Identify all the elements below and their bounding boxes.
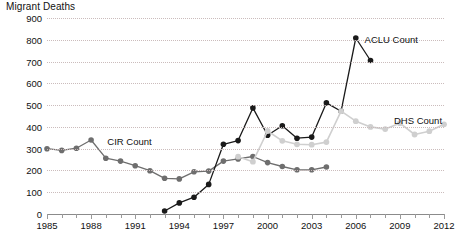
gridline [47, 170, 444, 171]
y-axis-tick-label: 0 [37, 209, 42, 220]
data-point [309, 142, 315, 148]
y-axis-tick-label: 400 [26, 121, 42, 132]
y-axis-labels: 0100200300400500600700800900 [0, 18, 42, 214]
data-point [265, 128, 271, 134]
x-axis-tick [356, 214, 357, 219]
x-axis-tick [238, 214, 239, 218]
series-label-aclu: ACLU Count [365, 34, 418, 45]
series-canvas [47, 18, 444, 214]
y-axis-tick-label: 700 [26, 56, 42, 67]
data-point [162, 176, 168, 182]
x-axis-tick [150, 214, 151, 218]
x-axis-tick-label: 2000 [257, 220, 278, 231]
x-axis-tick [47, 214, 48, 219]
x-axis-tick [62, 214, 63, 218]
data-point [221, 158, 227, 164]
x-axis-tick [326, 214, 327, 218]
gridline [47, 18, 444, 19]
y-axis-tick-label: 500 [26, 100, 42, 111]
gridline [47, 127, 444, 128]
x-axis-tick-label: 1994 [169, 220, 190, 231]
plot-area: CIR CountACLU CountDHS Count [47, 18, 444, 214]
data-point [324, 164, 330, 170]
gridline [47, 105, 444, 106]
y-axis-tick-label: 100 [26, 187, 42, 198]
data-point [88, 137, 94, 143]
data-point [309, 134, 315, 140]
x-axis-tick [415, 214, 416, 218]
data-point [235, 154, 241, 160]
data-point [279, 138, 285, 144]
y-axis-tick-label: 600 [26, 78, 42, 89]
x-axis-tick-label: 1991 [125, 220, 146, 231]
gridline [47, 192, 444, 193]
x-axis-tick [135, 214, 136, 219]
data-point [235, 138, 241, 144]
data-point [338, 108, 344, 114]
chart-title: Migrant Deaths [6, 1, 75, 12]
data-point [177, 176, 183, 182]
data-point [103, 155, 109, 161]
data-point [280, 164, 286, 170]
x-axis-tick [444, 214, 445, 219]
data-point [353, 118, 359, 124]
y-axis-tick-label: 300 [26, 143, 42, 154]
data-point [132, 163, 138, 169]
x-axis-tick [429, 214, 430, 218]
x-axis-tick-label: 1985 [36, 220, 57, 231]
y-axis-tick-label: 900 [26, 13, 42, 24]
x-axis-tick-label: 2009 [389, 220, 410, 231]
data-point [221, 142, 227, 148]
x-axis-tick [165, 214, 166, 218]
x-axis-tick-label: 1997 [213, 220, 234, 231]
x-axis-tick [268, 214, 269, 219]
data-point [324, 139, 330, 145]
gridline [47, 83, 444, 84]
data-point [294, 141, 300, 147]
y-axis-tick-label: 800 [26, 34, 42, 45]
x-axis-tick [209, 214, 210, 218]
x-axis-tick-label: 2006 [345, 220, 366, 231]
x-axis-tick [370, 214, 371, 218]
data-point [191, 194, 197, 200]
x-axis-tick [76, 214, 77, 218]
x-axis-tick-label: 2012 [433, 220, 454, 231]
x-axis-tick [297, 214, 298, 218]
data-point [412, 132, 418, 138]
x-axis-tick [341, 214, 342, 218]
x-axis-tick-label: 2003 [301, 220, 322, 231]
series-label-cir: CIR Count [107, 136, 151, 147]
gridline [47, 149, 444, 150]
data-point [118, 158, 124, 164]
x-axis-tick [91, 214, 92, 219]
x-axis-tick [282, 214, 283, 218]
series-label-dhs: DHS Count [394, 115, 442, 126]
series-line [47, 140, 326, 179]
data-point [206, 182, 212, 188]
x-axis-tick [121, 214, 122, 218]
gridline [47, 62, 444, 63]
x-axis-tick [312, 214, 313, 219]
data-point [265, 160, 271, 166]
x-axis-tick [194, 214, 195, 218]
data-point [162, 208, 168, 214]
data-point [426, 128, 432, 134]
x-axis-ticks: 1985198819911994199720002003200620092012 [47, 214, 444, 240]
x-axis-tick [179, 214, 180, 219]
x-axis-tick [223, 214, 224, 219]
data-point [294, 135, 300, 141]
data-point [177, 200, 183, 206]
series-line [165, 38, 371, 211]
data-point [250, 159, 256, 165]
x-axis-tick [106, 214, 107, 218]
x-axis-tick [385, 214, 386, 218]
y-axis-tick-label: 200 [26, 165, 42, 176]
x-axis-tick [400, 214, 401, 219]
x-axis-tick-label: 1988 [81, 220, 102, 231]
x-axis-tick [253, 214, 254, 218]
